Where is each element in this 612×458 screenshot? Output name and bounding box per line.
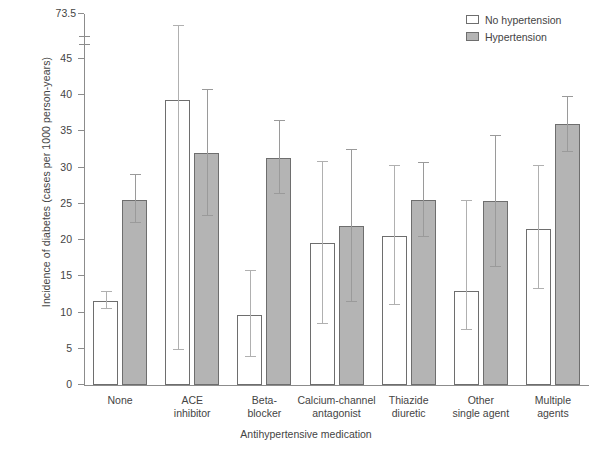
y-tick-label: 35 <box>36 124 72 136</box>
error-bar-cap <box>346 149 357 150</box>
error-bar-cap <box>389 165 400 166</box>
error-bar-cap <box>461 329 472 330</box>
axis-break-mark <box>79 44 90 45</box>
error-bar-cap <box>317 161 328 162</box>
legend-item-hypertension: Hypertension <box>466 29 561 44</box>
error-bar <box>279 121 280 194</box>
error-bar-cap <box>274 193 285 194</box>
y-tick-label: 45 <box>36 52 72 64</box>
error-bar-cap <box>389 304 400 305</box>
y-tick-label-max: 73.5 <box>36 7 76 19</box>
x-axis-line <box>84 385 589 386</box>
chart-figure: Incidence of diabetes (cases per 1000 pe… <box>0 0 612 458</box>
error-bar <box>466 201 467 330</box>
y-tick-label: 0 <box>36 378 72 390</box>
y-tick <box>78 130 84 131</box>
y-axis-title: Incidence of diabetes (cases per 1000 pe… <box>40 32 52 332</box>
y-tick <box>78 275 84 276</box>
x-category-label-line: Multiple <box>509 394 597 407</box>
legend-swatch-open-icon <box>466 15 479 24</box>
error-bar-cap <box>101 308 112 309</box>
error-bar <box>250 271 251 357</box>
y-tick <box>78 167 84 168</box>
y-tick-label: 20 <box>36 233 72 245</box>
y-axis-line <box>84 14 85 385</box>
error-bar <box>322 162 323 324</box>
error-bar-cap <box>533 288 544 289</box>
y-tick-label: 40 <box>36 88 72 100</box>
y-tick-label: 10 <box>36 306 72 318</box>
error-bar <box>351 150 352 302</box>
error-bar-cap <box>130 222 141 223</box>
legend-label: No hypertension <box>485 14 561 26</box>
error-bar <box>178 26 179 350</box>
x-category-label-line: agents <box>509 407 597 420</box>
y-tick <box>78 312 84 313</box>
error-bar <box>394 166 395 306</box>
legend-item-no-hypertension: No hypertension <box>466 12 561 27</box>
error-bar <box>207 90 208 216</box>
error-bar <box>423 163 424 236</box>
bar-no-hypertension <box>93 301 118 385</box>
y-tick <box>78 94 84 95</box>
axis-break-mark <box>79 36 90 37</box>
x-axis-title: Antihypertensive medication <box>0 428 612 440</box>
error-bar-cap <box>490 266 501 267</box>
error-bar-cap <box>245 270 256 271</box>
y-tick <box>78 239 84 240</box>
error-bar-cap <box>418 162 429 163</box>
y-tick-label: 15 <box>36 269 72 281</box>
x-category-label: Multipleagents <box>509 394 597 420</box>
y-tick <box>78 13 84 14</box>
error-bar-cap <box>101 291 112 292</box>
error-bar <box>106 292 107 309</box>
error-bar-cap <box>274 120 285 121</box>
error-bar-cap <box>461 200 472 201</box>
y-tick-label: 25 <box>36 197 72 209</box>
error-bar-cap <box>418 236 429 237</box>
error-bar-cap <box>202 89 213 90</box>
error-bar-cap <box>130 174 141 175</box>
legend-swatch-filled-icon <box>466 32 479 41</box>
error-bar <box>567 97 568 152</box>
bar-hypertension <box>555 124 580 385</box>
y-tick <box>78 348 84 349</box>
y-tick-label: 5 <box>36 342 72 354</box>
y-tick <box>78 58 84 59</box>
error-bar-cap <box>173 349 184 350</box>
legend: No hypertension Hypertension <box>466 12 561 46</box>
y-tick <box>78 203 84 204</box>
error-bar-cap <box>562 151 573 152</box>
y-tick-label: 30 <box>36 161 72 173</box>
error-bar <box>495 136 496 267</box>
error-bar-cap <box>562 96 573 97</box>
error-bar <box>135 175 136 224</box>
legend-label: Hypertension <box>485 31 547 43</box>
y-tick <box>78 384 84 385</box>
error-bar-cap <box>245 356 256 357</box>
plot-area <box>84 14 589 385</box>
error-bar <box>538 166 539 290</box>
error-bar-cap <box>533 165 544 166</box>
error-bar-cap <box>317 323 328 324</box>
error-bar-cap <box>346 301 357 302</box>
error-bar-cap <box>173 25 184 26</box>
error-bar-cap <box>490 135 501 136</box>
error-bar-cap <box>202 215 213 216</box>
bar-hypertension <box>122 200 147 385</box>
